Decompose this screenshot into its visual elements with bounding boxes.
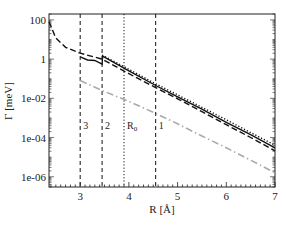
x-tick-label: 5 [175, 190, 181, 202]
x-tick-label: 7 [272, 190, 278, 202]
marker-label-2: 2 [105, 120, 110, 131]
y-tick-label: 1e-06 [21, 171, 47, 183]
data-series [49, 22, 275, 173]
series-solid-line [80, 56, 275, 148]
marker-label-1: 3 [83, 120, 88, 131]
chart: 32R01 34567 10011e-021e-041e-06 R [Å] Γ … [0, 0, 286, 227]
y-tick-label: 100 [30, 14, 47, 26]
y-axis: 10011e-021e-041e-06 [21, 14, 275, 187]
y-tick-label: 1e-02 [21, 92, 46, 104]
vertical-markers: 32R01 [80, 14, 163, 187]
series-dotted-line [102, 55, 275, 145]
marker-label-3: R0 [127, 120, 138, 133]
marker-label-4: 1 [159, 120, 164, 131]
y-tick-label: 1e-04 [21, 132, 47, 144]
y-tick-label: 1 [41, 53, 47, 65]
x-tick-label: 3 [77, 190, 83, 202]
x-tick-label: 4 [126, 190, 132, 202]
y-axis-label: Γ [meV] [2, 82, 14, 120]
plot-frame [49, 14, 275, 187]
x-axis: 34567 [51, 182, 278, 202]
plot-border [49, 14, 275, 187]
x-tick-label: 6 [224, 190, 230, 202]
x-axis-label: R [Å] [149, 203, 174, 215]
